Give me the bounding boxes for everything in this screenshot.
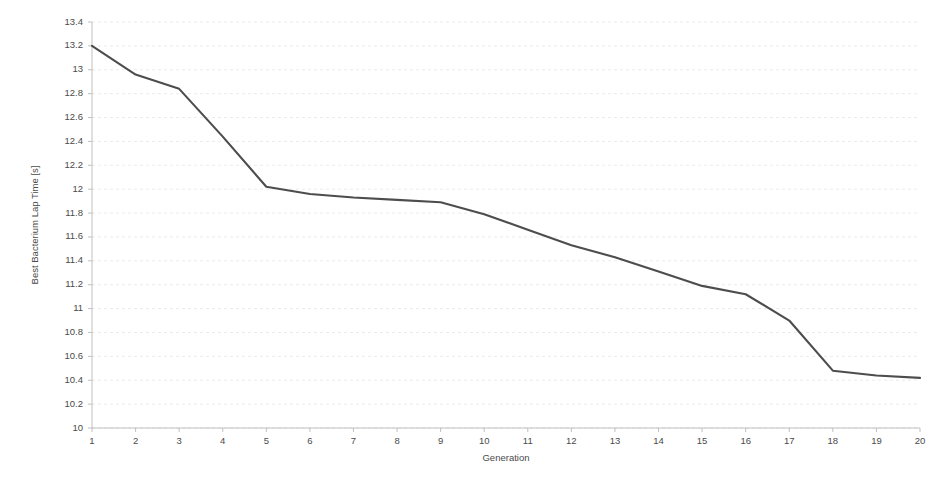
x-axis-label: Generation	[482, 452, 529, 463]
x-tick-label: 11	[523, 435, 533, 446]
y-axis-label: Best Bacterium Lap Time [s]	[29, 166, 40, 285]
x-tick-label: 14	[653, 435, 664, 446]
y-tick-label: 13	[72, 63, 83, 74]
y-tick-label: 12.2	[65, 159, 84, 170]
y-tick-label: 10.2	[65, 398, 84, 409]
x-tick-label: 17	[784, 435, 795, 446]
line-chart: 1010.210.410.610.81111.211.411.611.81212…	[0, 0, 950, 498]
x-tick-label: 8	[394, 435, 399, 446]
y-tick-label: 11.8	[65, 207, 83, 218]
x-tick-label: 20	[915, 435, 926, 446]
chart-container: 1010.210.410.610.81111.211.411.611.81212…	[0, 0, 950, 498]
y-tick-label: 10.4	[65, 374, 84, 385]
y-tick-label: 10	[72, 422, 83, 433]
x-tick-label: 12	[566, 435, 577, 446]
x-tick-label: 18	[828, 435, 839, 446]
x-tick-label: 2	[133, 435, 138, 446]
x-tick-label: 19	[871, 435, 882, 446]
y-tick-label: 12.8	[65, 87, 84, 98]
y-tick-label: 12	[72, 183, 83, 194]
y-tick-label: 12.6	[65, 111, 84, 122]
y-tick-label: 11.6	[65, 230, 83, 241]
y-tick-label: 11.4	[65, 254, 83, 265]
y-tick-label: 11.2	[65, 278, 83, 289]
x-tick-label: 16	[740, 435, 751, 446]
y-tick-label: 13.4	[65, 16, 84, 27]
y-tick-label: 10.8	[65, 326, 84, 337]
y-tick-label: 12.4	[65, 135, 84, 146]
x-tick-label: 9	[438, 435, 443, 446]
chart-background	[0, 0, 950, 498]
x-tick-label: 10	[479, 435, 490, 446]
x-tick-label: 3	[177, 435, 182, 446]
x-tick-label: 13	[610, 435, 621, 446]
x-tick-label: 5	[264, 435, 269, 446]
y-tick-label: 13.2	[65, 39, 84, 50]
x-tick-label: 7	[351, 435, 356, 446]
x-tick-label: 15	[697, 435, 708, 446]
x-tick-label: 1	[89, 435, 94, 446]
x-tick-label: 4	[220, 435, 225, 446]
y-tick-label: 10.6	[65, 350, 84, 361]
x-tick-label: 6	[307, 435, 312, 446]
y-tick-label: 11	[73, 302, 83, 313]
